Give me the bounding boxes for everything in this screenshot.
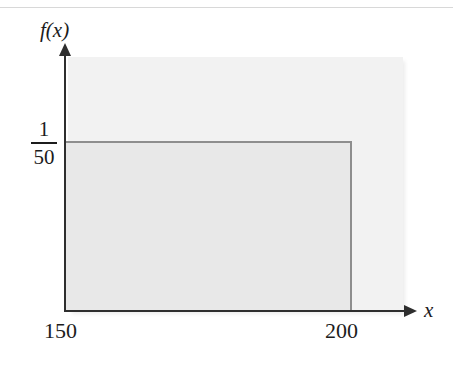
page-rule-divider xyxy=(0,7,453,8)
x-axis-label: x xyxy=(424,300,433,321)
y-axis-arrow-icon xyxy=(59,43,71,56)
y-axis-tick-label-fraction: 1 50 xyxy=(28,118,60,168)
density-function-figure: f(x) x 1 50 150 200 xyxy=(0,0,453,366)
fraction-bar xyxy=(31,142,57,144)
y-axis-line xyxy=(64,54,66,312)
fraction-numerator: 1 xyxy=(28,118,60,141)
fraction-denominator: 50 xyxy=(28,146,60,168)
y-axis-label: f(x) xyxy=(40,20,69,41)
x-axis-tick-label-right: 200 xyxy=(325,320,358,342)
x-axis-tick-label-left: 150 xyxy=(44,320,77,342)
uniform-density-rectangle xyxy=(64,141,352,311)
x-axis-arrow-icon xyxy=(404,305,417,317)
x-axis-line xyxy=(64,310,409,312)
